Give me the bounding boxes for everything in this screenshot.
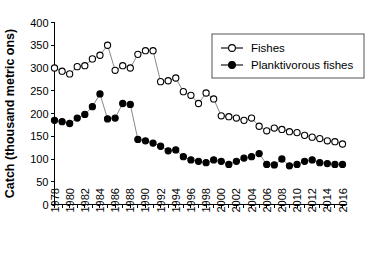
data-point	[309, 134, 315, 140]
data-point	[317, 160, 323, 166]
data-point	[127, 65, 133, 71]
data-point	[256, 150, 262, 156]
x-tick-label: 2002	[230, 188, 242, 212]
x-tick-label: 2008	[276, 188, 288, 212]
data-point	[97, 52, 103, 58]
data-point	[195, 100, 201, 106]
data-point	[51, 65, 57, 71]
data-point	[104, 42, 110, 48]
data-point	[271, 162, 277, 168]
x-tick-label: 1986	[109, 188, 121, 212]
data-point	[211, 157, 217, 163]
data-point	[173, 147, 179, 153]
x-axis: 1978198019821984198619881990199219941996…	[49, 188, 349, 212]
data-point	[165, 148, 171, 154]
data-point	[332, 161, 338, 167]
legend-box	[212, 34, 364, 78]
data-point	[158, 143, 164, 149]
y-tick-label: 100	[30, 153, 48, 165]
y-tick-label: 250	[30, 85, 48, 97]
x-tick-label: 2016	[337, 188, 349, 212]
data-point	[226, 161, 232, 167]
data-point	[324, 138, 330, 144]
data-point	[286, 163, 292, 169]
y-tick-label: 300	[30, 62, 48, 74]
x-tick-label: 2000	[215, 188, 227, 212]
data-point	[302, 132, 308, 138]
data-point	[67, 120, 73, 126]
data-point	[89, 56, 95, 62]
x-tick-label: 1984	[94, 188, 106, 212]
data-point	[180, 89, 186, 95]
x-tick-label: 1996	[185, 188, 197, 212]
y-tick-label: 350	[30, 39, 48, 51]
data-point	[317, 135, 323, 141]
data-point	[180, 154, 186, 160]
legend-label-fishes: Fishes	[251, 42, 285, 54]
y-tick-label: 200	[30, 108, 48, 120]
data-point	[302, 158, 308, 164]
x-tick-label: 1992	[155, 188, 167, 212]
data-point	[203, 160, 209, 166]
data-point	[271, 125, 277, 131]
data-point	[127, 101, 133, 107]
data-point	[339, 161, 345, 167]
data-point	[218, 113, 224, 119]
data-point	[104, 116, 110, 122]
data-point	[82, 111, 88, 117]
chart-legend: FishesPlanktivorous fishes	[212, 34, 364, 78]
data-point	[165, 78, 171, 84]
data-point	[142, 138, 148, 144]
x-tick-label: 2006	[261, 188, 273, 212]
data-point	[89, 104, 95, 110]
data-point	[233, 158, 239, 164]
legend-label-planktivorous-fishes: Planktivorous fishes	[251, 59, 354, 71]
x-tick-label: 2004	[246, 188, 258, 212]
data-point	[120, 63, 126, 69]
data-point	[173, 75, 179, 81]
data-point	[279, 126, 285, 132]
data-point	[67, 71, 73, 77]
x-tick-label: 1990	[139, 188, 151, 212]
data-point	[120, 100, 126, 106]
data-point	[226, 114, 232, 120]
data-point	[74, 64, 80, 70]
data-point	[82, 63, 88, 69]
data-point	[256, 123, 262, 129]
data-point	[211, 96, 217, 102]
data-point	[241, 155, 247, 161]
data-point	[203, 90, 209, 96]
x-tick-label: 1978	[49, 188, 61, 212]
x-tick-label: 2014	[321, 188, 333, 212]
data-point	[97, 91, 103, 97]
data-point	[324, 160, 330, 166]
data-point	[264, 128, 270, 134]
y-tick-label: 150	[30, 130, 48, 142]
y-axis-title: Catch (thousand metric ons)	[3, 29, 17, 198]
data-point	[112, 115, 118, 121]
legend-marker-fishes	[229, 45, 236, 52]
data-point	[248, 154, 254, 160]
legend-marker-planktivorous-fishes	[229, 62, 236, 69]
data-point	[112, 67, 118, 73]
data-point	[294, 130, 300, 136]
data-point	[218, 158, 224, 164]
data-point	[150, 140, 156, 146]
data-point	[294, 161, 300, 167]
data-point	[51, 117, 57, 123]
data-point	[233, 115, 239, 121]
x-tick-label: 1982	[79, 188, 91, 212]
data-point	[74, 115, 80, 121]
data-point	[195, 158, 201, 164]
data-point	[150, 48, 156, 54]
data-point	[241, 117, 247, 123]
data-point	[309, 157, 315, 163]
data-point	[59, 119, 65, 125]
data-point	[339, 141, 345, 147]
data-point	[59, 68, 65, 74]
y-tick-label: 50	[36, 176, 48, 188]
y-tick-label: 400	[30, 17, 48, 29]
line-chart: Catch (thousand metric ons) 050100150200…	[0, 0, 377, 259]
x-tick-label: 1994	[170, 188, 182, 212]
data-point	[264, 161, 270, 167]
